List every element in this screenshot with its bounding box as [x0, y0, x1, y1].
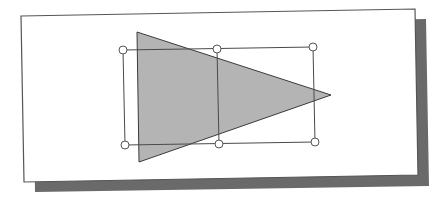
handle-bottom-right-icon[interactable]: [311, 138, 319, 146]
handle-top-left-icon[interactable]: [119, 46, 127, 54]
handle-bottom-middle-icon[interactable]: [215, 140, 223, 148]
diagram-canvas: [0, 0, 447, 204]
handle-bottom-left-icon[interactable]: [121, 141, 129, 149]
handle-top-right-icon[interactable]: [309, 43, 317, 51]
handle-top-middle-icon[interactable]: [213, 45, 221, 53]
